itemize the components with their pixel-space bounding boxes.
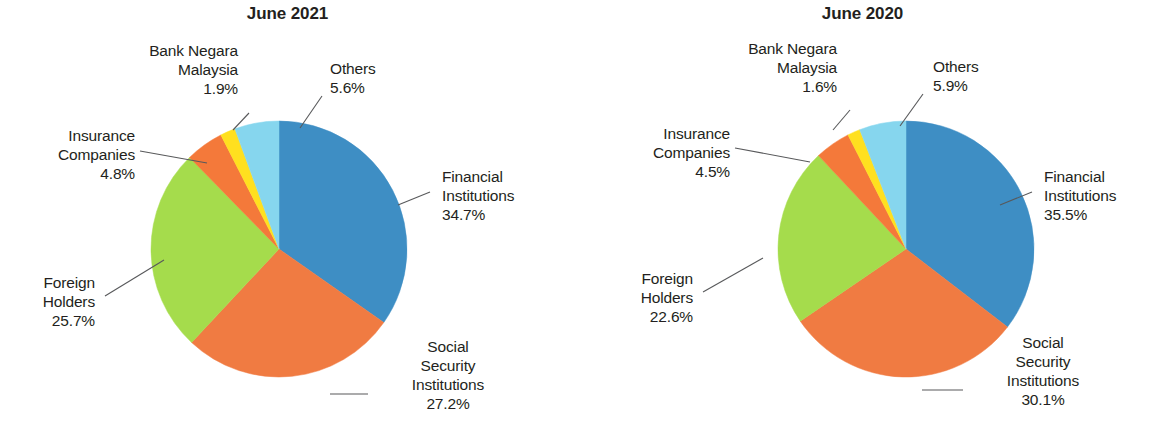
callout-fi-name2-left: Institutions [442,187,514,206]
callout-ss-name3-left: Institutions [378,376,518,395]
callout-ss-value-right: 30.1% [973,391,1113,410]
callout-ss-name1-left: Social [378,338,518,357]
callout-fh-name1-left: Foreign [0,274,95,293]
callout-fh-value-right: 22.6% [595,308,693,327]
callout-others-right: Others 5.9% [933,58,979,96]
callout-fi-name1-left: Financial [442,168,514,187]
callout-ss-name3-right: Institutions [973,372,1113,391]
callout-others-name-left: Others [330,60,376,79]
callout-fi-name1-right: Financial [1044,168,1116,187]
callout-others-value-right: 5.9% [933,77,979,96]
pie-chart-june-2020: June 2020 Others 5.9% Financial Institut… [575,0,1150,424]
leader-line-financial-institutions [398,192,430,205]
callout-bnm-value-right: 1.6% [647,78,837,97]
callout-bank-negara-left: Bank Negara Malaysia 1.9% [48,42,238,99]
callout-ss-value-left: 27.2% [378,395,518,414]
callout-ss-name2-left: Security [378,357,518,376]
callout-bank-negara-right: Bank Negara Malaysia 1.6% [647,40,837,97]
callout-fh-name1-right: Foreign [595,270,693,289]
callout-social-security-left: Social Security Institutions 27.2% [378,338,518,414]
callout-insurance-companies-right: Insurance Companies 4.5% [595,125,730,182]
callout-fh-value-left: 25.7% [0,312,95,331]
callout-insurance-companies-left: Insurance Companies 4.8% [0,127,135,184]
callout-others-value-left: 5.6% [330,79,376,98]
callout-others-name-right: Others [933,58,979,77]
callout-bnm-name2-right: Malaysia [647,59,837,78]
callout-bnm-name1-left: Bank Negara [48,42,238,61]
callout-bnm-name1-right: Bank Negara [647,40,837,59]
callout-fi-value-right: 35.5% [1044,206,1116,225]
callout-fh-name2-left: Holders [0,293,95,312]
callout-ic-name1-left: Insurance [0,127,135,146]
callout-ss-name2-right: Security [973,353,1113,372]
callout-foreign-holders-left: Foreign Holders 25.7% [0,274,95,331]
pie-chart-june-2021: June 2021 Others 5.6% Financial Institut… [0,0,575,424]
callout-ic-name1-right: Insurance [595,125,730,144]
leader-line-foreign-holders [703,258,763,292]
leader-line-bank-negara [833,110,850,130]
callout-social-security-right: Social Security Institutions 30.1% [973,334,1113,410]
callout-others-left: Others 5.6% [330,60,376,98]
callout-foreign-holders-right: Foreign Holders 22.6% [595,270,693,327]
callout-financial-institutions-right: Financial Institutions 35.5% [1044,168,1116,225]
callout-bnm-name2-left: Malaysia [48,61,238,80]
callout-ss-name1-right: Social [973,334,1113,353]
callout-financial-institutions-left: Financial Institutions 34.7% [442,168,514,225]
callout-ic-value-right: 4.5% [595,163,730,182]
leader-line-insurance-companies [735,148,810,162]
callout-ic-value-left: 4.8% [0,165,135,184]
leader-line-others [300,96,322,128]
callout-ic-name2-left: Companies [0,146,135,165]
callout-bnm-value-left: 1.9% [48,80,238,99]
callout-fh-name2-right: Holders [595,289,693,308]
callout-fi-name2-right: Institutions [1044,187,1116,206]
callout-ic-name2-right: Companies [595,144,730,163]
callout-fi-value-left: 34.7% [442,206,514,225]
